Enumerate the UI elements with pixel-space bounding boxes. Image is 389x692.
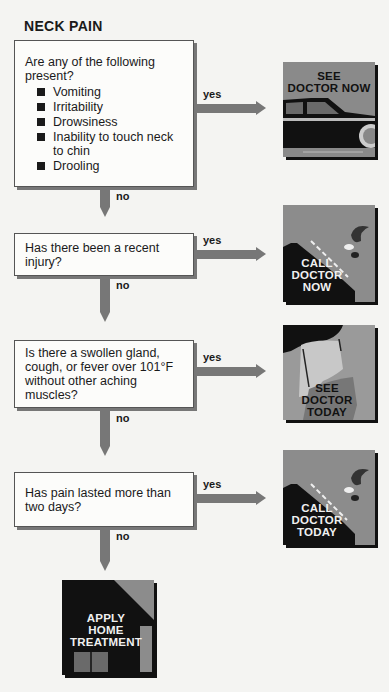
yes-arrow <box>196 494 256 503</box>
symptom-list: Vomiting Irritability Drowsiness Inabili… <box>25 85 183 173</box>
yes-label: yes <box>203 351 221 363</box>
no-label: no <box>116 190 129 202</box>
yes-arrow <box>196 250 256 259</box>
yes-label: yes <box>203 234 221 246</box>
question-box-symptoms: Are any of the following present? Vomiti… <box>14 40 194 187</box>
outcome-see-doctor-today: SEE DOCTOR TODAY <box>283 325 375 420</box>
list-item: Drowsiness <box>35 115 183 129</box>
question-box-gland: Is there a swollen gland, cough, or feve… <box>14 340 194 408</box>
no-arrow <box>100 187 110 207</box>
page-title: NECK PAIN <box>24 18 103 34</box>
arrowhead-icon <box>256 364 266 378</box>
question-box-duration: Has pain lasted more than two days? <box>14 472 194 527</box>
no-arrow <box>100 408 110 446</box>
no-arrow <box>100 527 110 561</box>
yes-label: yes <box>203 88 221 100</box>
arrowhead-icon <box>256 491 266 505</box>
outcome-apply-home-treatment: APPLY HOME TREATMENT <box>62 580 154 675</box>
question-text: Has pain lasted more than two days? <box>25 486 183 514</box>
yes-label: yes <box>203 478 221 490</box>
outcome-call-doctor-today: CALL DOCTOR TODAY <box>283 450 375 545</box>
outcome-call-doctor-now: CALL DOCTOR NOW <box>283 205 375 302</box>
question-box-injury: Has there been a recent injury? <box>14 233 194 276</box>
list-item: Vomiting <box>35 85 183 99</box>
yes-arrow <box>196 367 256 376</box>
list-item: Irritability <box>35 100 183 114</box>
no-label: no <box>116 412 129 424</box>
question-text: Is there a swollen gland, cough, or feve… <box>25 346 183 402</box>
list-item: Inability to touch neck to chin <box>35 130 183 158</box>
question-text: Has there been a recent injury? <box>25 241 183 269</box>
no-arrow <box>100 276 110 312</box>
square-bullet-icon <box>37 88 45 96</box>
square-bullet-icon <box>37 103 45 111</box>
arrowhead-icon <box>100 446 110 456</box>
arrowhead-icon <box>256 101 266 115</box>
list-item: Drooling <box>35 159 183 173</box>
question-text: Are any of the following present? <box>25 55 183 83</box>
yes-arrow <box>196 104 256 113</box>
outcome-see-doctor-now: SEE DOCTOR NOW <box>283 62 375 157</box>
no-label: no <box>116 279 129 291</box>
square-bullet-icon <box>37 118 45 126</box>
no-label: no <box>116 530 129 542</box>
car-icon <box>283 62 375 157</box>
arrowhead-icon <box>256 247 266 261</box>
arrowhead-icon <box>100 561 110 571</box>
arrowhead-icon <box>100 207 110 217</box>
square-bullet-icon <box>37 162 45 170</box>
square-bullet-icon <box>37 133 45 141</box>
arrowhead-icon <box>100 312 110 322</box>
